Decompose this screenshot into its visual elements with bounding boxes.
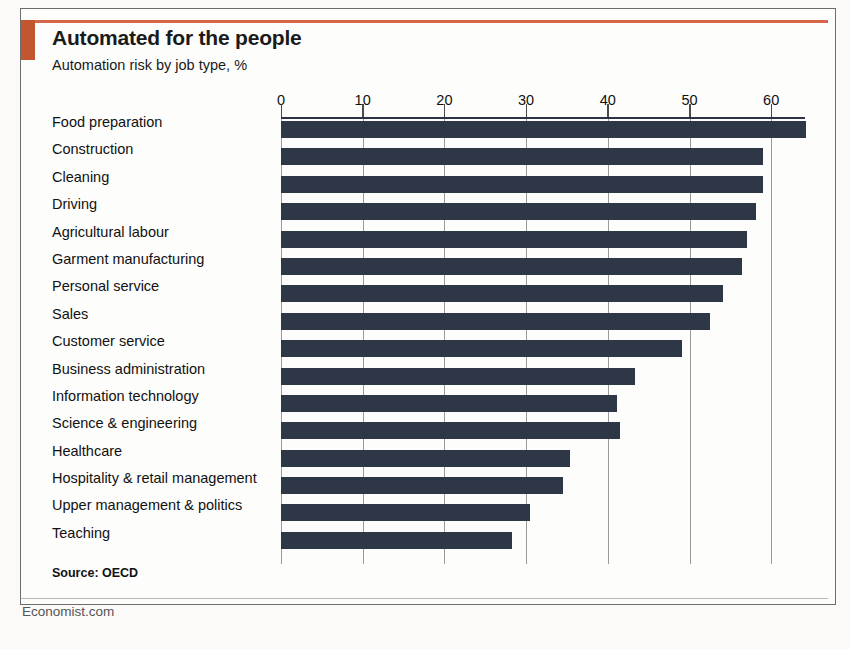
category-label: Sales <box>52 306 88 322</box>
chart-subtitle: Automation risk by job type, % <box>52 57 247 73</box>
category-label: Information technology <box>52 388 199 404</box>
chart-row: Healthcare <box>0 441 850 468</box>
chart-row: Science & engineering <box>0 413 850 440</box>
bar <box>281 121 806 138</box>
category-label: Agricultural labour <box>52 224 169 240</box>
bar-rows: Food preparationConstructionCleaningDriv… <box>0 112 850 550</box>
bar <box>281 477 563 494</box>
category-label: Customer service <box>52 333 165 349</box>
chart-row: Upper management & politics <box>0 495 850 522</box>
category-label: Teaching <box>52 525 110 541</box>
chart-row: Customer service <box>0 331 850 358</box>
source-note: Source: OECD <box>52 566 138 580</box>
chart-card-root: Automated for the people Automation risk… <box>0 0 850 649</box>
category-label: Science & engineering <box>52 415 197 431</box>
bar <box>281 176 763 193</box>
category-label: Construction <box>52 141 133 157</box>
bar <box>281 395 617 412</box>
footer-divider <box>21 598 828 599</box>
category-label: Cleaning <box>52 169 109 185</box>
chart-row: Business administration <box>0 359 850 386</box>
category-label: Food preparation <box>52 114 162 130</box>
bar <box>281 148 763 165</box>
chart-row: Construction <box>0 139 850 166</box>
bar <box>281 258 742 275</box>
accent-square-icon <box>21 20 35 60</box>
chart-row: Food preparation <box>0 112 850 139</box>
bar <box>281 532 512 549</box>
page-title: Automated for the people <box>52 26 302 50</box>
chart-row: Hospitality & retail management <box>0 468 850 495</box>
category-label: Personal service <box>52 278 159 294</box>
chart-row: Garment manufacturing <box>0 249 850 276</box>
chart-row: Teaching <box>0 523 850 550</box>
chart-row: Information technology <box>0 386 850 413</box>
chart-row: Agricultural labour <box>0 222 850 249</box>
chart-row: Sales <box>0 304 850 331</box>
category-label: Upper management & politics <box>52 497 242 513</box>
category-label: Garment manufacturing <box>52 251 204 267</box>
bar <box>281 504 530 521</box>
bar <box>281 340 682 357</box>
bar <box>281 203 756 220</box>
chart-row: Cleaning <box>0 167 850 194</box>
bar <box>281 285 723 302</box>
bar <box>281 313 710 330</box>
bar <box>281 368 635 385</box>
top-rule <box>21 20 828 23</box>
category-label: Driving <box>52 196 97 212</box>
category-label: Hospitality & retail management <box>52 470 257 486</box>
category-label: Business administration <box>52 361 205 377</box>
bar <box>281 231 747 248</box>
chart-row: Driving <box>0 194 850 221</box>
category-label: Healthcare <box>52 443 122 459</box>
chart-row: Personal service <box>0 276 850 303</box>
brand-label: Economist.com <box>22 604 114 619</box>
bar <box>281 450 570 467</box>
bar <box>281 422 620 439</box>
